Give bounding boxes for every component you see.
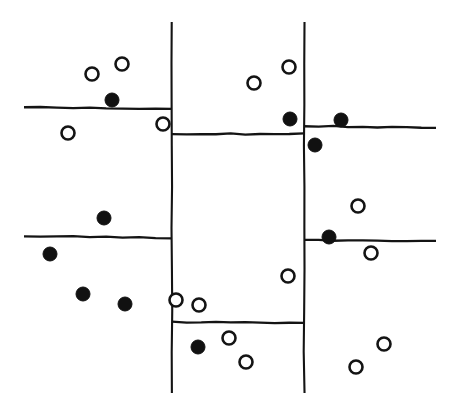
data-point-filled — [283, 112, 297, 126]
data-point-filled — [118, 297, 132, 311]
data-point-open — [378, 338, 391, 351]
data-point-filled — [322, 230, 336, 244]
data-point-filled — [43, 247, 57, 261]
data-point-filled — [308, 138, 322, 152]
data-point-open — [365, 247, 378, 260]
data-point-open — [240, 356, 253, 369]
partition-scatter-figure — [0, 0, 458, 409]
data-point-open — [170, 294, 183, 307]
data-point-open — [350, 361, 363, 374]
data-point-filled — [97, 211, 111, 225]
data-point-open — [282, 270, 295, 283]
data-point-open — [283, 61, 296, 74]
data-point-open — [86, 68, 99, 81]
partition-line-horizontal-middle-bottom — [172, 322, 304, 323]
data-point-filled — [334, 113, 348, 127]
data-point-open — [157, 118, 170, 131]
data-point-open — [193, 299, 206, 312]
data-point-open — [352, 200, 365, 213]
figure-canvas — [0, 0, 458, 409]
data-point-open — [116, 58, 129, 71]
data-point-open — [62, 127, 75, 140]
data-point-filled — [105, 93, 119, 107]
data-point-open — [248, 77, 261, 90]
data-point-open — [223, 332, 236, 345]
partition-line-horizontal-middle-top — [172, 133, 304, 134]
partition-line-vertical-right — [304, 22, 305, 393]
data-point-filled — [76, 287, 90, 301]
data-point-filled — [191, 340, 205, 354]
partition-line-vertical-left — [172, 22, 173, 393]
